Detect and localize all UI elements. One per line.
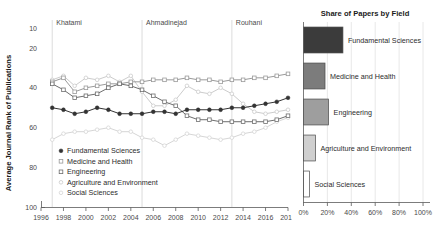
data-point-marker [73,90,77,94]
data-point-marker [163,78,167,82]
data-point-marker [140,88,144,92]
x-tick-label: 2008 [168,214,184,221]
data-point-marker [275,118,279,122]
era-label: Ahmadinejad [146,19,187,27]
data-point-marker [50,106,54,110]
bar-labels-layer: Fundamental SciencesMedicine and HealthE… [314,36,421,189]
line-chart-panel: Average Journal Rank of Publications 102… [0,0,292,233]
x-tick-label: 2014 [235,214,251,221]
bar-x-axis-ticks: 0%20%40%60%80%100% [298,203,432,217]
data-point-marker [84,130,88,134]
data-point-marker [73,96,77,100]
data-point-marker [163,144,167,148]
x-tick-label: 2000 [78,214,94,221]
data-point-marker [230,120,234,124]
x-tick-label: 2010 [190,214,206,221]
legend-item-engineering[interactable]: Engineering [59,167,105,176]
bar-x-tick-label: 20% [320,209,334,216]
y-axis-ticks: 1020406080100 [25,25,45,212]
data-point-marker [286,114,290,118]
data-point-marker [230,136,234,140]
data-point-marker [275,74,279,78]
data-point-marker [185,114,189,118]
bar-social-sciences[interactable] [304,171,310,197]
data-point-marker [185,108,189,112]
line-chart-svg: Average Journal Rank of Publications 102… [0,0,292,233]
data-point-marker [151,110,155,114]
data-point-marker [95,128,99,132]
data-point-marker [264,76,268,80]
data-point-marker [129,130,133,134]
data-point-marker [174,78,178,82]
data-point-marker [241,106,245,110]
bar-x-tick-label: 0% [298,209,308,216]
data-point-marker [241,132,245,136]
data-point-marker [253,130,257,134]
data-point-marker [95,92,99,96]
data-point-marker [59,170,63,174]
data-point-marker [230,92,234,96]
data-point-marker [219,108,223,112]
legend-item-medicine-and-health[interactable]: Medicine and Health [59,157,132,166]
data-point-marker [286,72,290,76]
data-point-marker [253,110,257,114]
bar-engineering[interactable] [304,99,329,125]
y-tick-label: 80 [29,164,37,171]
data-point-marker [140,112,144,116]
data-point-marker [50,138,54,142]
figure-container: Average Journal Rank of Publications 102… [0,0,435,233]
data-point-marker [219,80,223,84]
data-point-marker [264,126,268,130]
bar-chart-title: Share of Papers by Field [321,9,410,18]
data-point-marker [73,130,77,134]
data-point-marker [174,98,178,102]
data-point-marker [59,160,63,164]
data-point-marker [59,149,63,153]
x-tick-label: 2006 [145,214,161,221]
data-point-marker [84,110,88,114]
data-point-marker [73,84,77,88]
data-point-marker [196,134,200,138]
data-point-marker [118,112,122,116]
data-point-marker [95,106,99,110]
data-point-marker [275,100,279,104]
bar-medicine-and-health[interactable] [304,63,326,89]
data-point-marker [107,82,111,86]
data-point-marker [62,76,66,80]
bar-x-tick-label: 40% [344,209,358,216]
data-point-marker [151,78,155,82]
data-point-marker [196,118,200,122]
data-point-marker [129,80,133,84]
y-tick-label: 40 [29,84,37,91]
y-axis-title: Average Journal Rank of Publications [4,55,13,191]
data-point-marker [84,86,88,90]
bar-agriculture-and-environment[interactable] [304,135,316,161]
legend-item-social-sciences[interactable]: Social Sciences [59,188,118,197]
data-point-marker [241,78,245,82]
data-point-marker [174,112,178,116]
data-point-marker [129,84,133,88]
data-point-marker [59,181,63,185]
data-point-marker [59,191,63,195]
legend-item-fundamental-sciences[interactable]: Fundamental Sciences [59,146,140,155]
bar-fundamental-sciences[interactable] [304,27,343,53]
data-point-marker [185,84,189,88]
data-point-marker [84,76,88,80]
legend-item-agriculture-and-environment[interactable]: Agriculture and Environment [59,178,158,187]
x-tick-label: 1998 [56,214,72,221]
bar-x-tick-label: 100% [414,209,432,216]
data-point-marker [151,138,155,142]
x-tick-label: 2004 [123,214,139,221]
data-point-marker [185,76,189,80]
bar-label-social-sciences: Social Sciences [314,180,365,189]
data-point-marker [62,108,66,112]
bar-label-fundamental-sciences: Fundamental Sciences [348,36,422,45]
bar-x-tick-label: 80% [392,209,406,216]
data-point-marker [140,80,144,84]
data-point-marker [286,108,290,112]
x-axis-ticks: 1996199820002002200420062008201020122014… [33,208,292,222]
data-point-marker [118,82,122,86]
legend-item-label: Medicine and Health [67,157,133,166]
legend-item-label: Fundamental Sciences [67,146,141,155]
era-label: Rouhani [236,19,263,26]
